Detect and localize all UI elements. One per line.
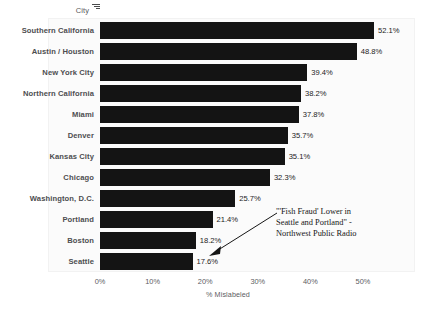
sort-descending-icon[interactable]	[92, 4, 100, 12]
bar[interactable]	[100, 148, 285, 165]
category-label: Austin / Houston	[0, 41, 94, 62]
bar-value-label: 37.8%	[303, 104, 325, 125]
bar-value-label: 48.8%	[361, 41, 383, 62]
table-row: Chicago32.3%	[0, 167, 436, 188]
bar-value-label: 52.1%	[378, 20, 400, 41]
category-label: Northern California	[0, 83, 94, 104]
category-label: Southern California	[0, 20, 94, 41]
category-label: Chicago	[0, 167, 94, 188]
x-axis-ticks: 0%10%20%30%40%50%	[0, 276, 436, 290]
x-tick-label: 10%	[145, 276, 160, 288]
x-tick-label: 40%	[303, 276, 318, 288]
table-row: Kansas City35.1%	[0, 146, 436, 167]
category-label: Seattle	[0, 251, 94, 272]
bar-value-label: 35.1%	[289, 146, 311, 167]
bar-value-label: 18.2%	[200, 230, 222, 251]
category-label: Portland	[0, 209, 94, 230]
annotation-line-2: Seattle and Portland" -	[276, 217, 402, 228]
table-row: Denver35.7%	[0, 125, 436, 146]
bar-value-label: 17.6%	[197, 251, 219, 272]
table-row: Seattle17.6%	[0, 251, 436, 272]
x-tick-label: 30%	[250, 276, 265, 288]
bar-value-label: 39.4%	[311, 62, 333, 83]
table-row: Southern California52.1%	[0, 20, 436, 41]
table-row: Austin / Houston48.8%	[0, 41, 436, 62]
bar[interactable]	[100, 85, 301, 102]
x-tick-label: 20%	[198, 276, 213, 288]
bar-value-label: 35.7%	[292, 125, 314, 146]
bar-value-label: 21.4%	[217, 209, 239, 230]
category-label: Miami	[0, 104, 94, 125]
category-label: Kansas City	[0, 146, 94, 167]
bar[interactable]	[100, 22, 374, 39]
annotation-line-1: "'Fish Fraud' Lower in	[276, 206, 402, 217]
bar[interactable]	[100, 64, 307, 81]
annotation-line-3: Northwest Public Radio	[276, 228, 402, 239]
bar[interactable]	[100, 190, 235, 207]
table-row: Miami37.8%	[0, 104, 436, 125]
bar[interactable]	[100, 232, 196, 249]
bar-value-label: 25.7%	[239, 188, 261, 209]
category-label: Denver	[0, 125, 94, 146]
category-axis-title: City	[48, 2, 100, 18]
x-axis-title: % Mislabeled	[0, 290, 436, 299]
bar[interactable]	[100, 106, 299, 123]
bar-chart: City Southern California52.1%Austin / Ho…	[0, 0, 436, 311]
category-axis-label: City	[76, 6, 89, 15]
fish-fraud-annotation: "'Fish Fraud' Lower in Seattle and Portl…	[276, 206, 402, 240]
bar[interactable]	[100, 127, 288, 144]
category-label: Boston	[0, 230, 94, 251]
bar[interactable]	[100, 253, 193, 270]
table-row: Northern California38.2%	[0, 83, 436, 104]
category-label: Washington, D.C.	[0, 188, 94, 209]
table-row: New York City39.4%	[0, 62, 436, 83]
bar-value-label: 38.2%	[305, 83, 327, 104]
x-tick-label: 50%	[356, 276, 371, 288]
bar[interactable]	[100, 169, 270, 186]
bar[interactable]	[100, 211, 213, 228]
x-tick-label: 0%	[95, 276, 106, 288]
bar[interactable]	[100, 43, 357, 60]
category-label: New York City	[0, 62, 94, 83]
bar-value-label: 32.3%	[274, 167, 296, 188]
